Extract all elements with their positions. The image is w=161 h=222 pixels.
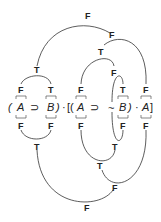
formula-atom-b1: B	[47, 101, 54, 113]
formula-implies-2: ⊃	[90, 101, 99, 113]
bottom-value-main: F	[84, 203, 90, 213]
bottom-value-neg-b: T	[112, 142, 118, 152]
formula-negation: ~	[108, 102, 114, 114]
arc-top-impl1	[21, 76, 51, 84]
top-value-conj-inner: F	[109, 30, 115, 40]
bottom-value-a2: F	[78, 121, 84, 131]
formula-dot-2: ·	[135, 101, 139, 113]
top-value-a1: F	[18, 85, 24, 95]
top-value-a3: F	[143, 85, 149, 95]
arc-top-impl2	[81, 59, 114, 84]
arc-top-main	[37, 26, 110, 66]
top-value-impl1: T	[34, 65, 40, 75]
bottom-value-b2: F	[120, 121, 126, 131]
top-value-impl2: T	[98, 47, 104, 57]
formula-atom-a3: A	[141, 101, 149, 113]
formula-dot-1: ·	[62, 101, 66, 113]
formula-open-paren: (	[8, 101, 13, 113]
top-value-b2: T	[120, 85, 126, 95]
arc-bottom-impl1	[21, 130, 51, 139]
truth-tree-diagram: ( A ⊃ B ) · [( A ⊃ ~ B ) · A ] F T F T F…	[0, 0, 161, 222]
formula-implies-1: ⊃	[30, 101, 39, 113]
top-value-neg-b: F	[111, 68, 117, 78]
bottom-value-a3: F	[143, 121, 149, 131]
bottom-value-a1: F	[18, 121, 24, 131]
formula-open-brackets: [(	[67, 101, 74, 113]
arc-bottom-main	[37, 150, 113, 202]
arc-bottom-impl2	[81, 130, 115, 161]
formula-atom-a1: A	[16, 101, 24, 113]
top-value-main: F	[85, 11, 91, 21]
bottom-value-conj-inner: F	[112, 183, 118, 193]
formula-atom-a2: A	[76, 101, 84, 113]
bottom-value-impl2: T	[97, 161, 103, 171]
bottom-value-b1: F	[48, 121, 54, 131]
bottom-value-impl1: T	[34, 142, 40, 152]
formula-close-paren-2: )	[126, 101, 132, 113]
formula-atom-b2: B	[119, 101, 126, 113]
top-value-b1: T	[48, 85, 54, 95]
arc-bottom-conj-inner	[102, 130, 146, 183]
formula-close-paren-1: )	[54, 101, 60, 113]
formula-close-bracket: ]	[150, 101, 153, 113]
top-value-a2: F	[78, 85, 84, 95]
